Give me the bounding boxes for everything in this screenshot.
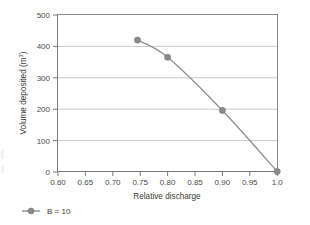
x-tick-label: 0.75 (132, 178, 148, 187)
x-tick-label: 0.85 (187, 178, 203, 187)
legend-label: B = 10 (47, 207, 71, 216)
x-axis-title: Relative discharge (133, 192, 201, 201)
y-tick-label: 0 (46, 168, 51, 177)
chart-svg: 0 100 200 300 400 500 Volume deposited (… (0, 0, 310, 225)
y-tick-label: 300 (37, 74, 51, 83)
x-tick-label: 0.65 (78, 178, 94, 187)
svg-text:Volume deposited (m3): Volume deposited (m3) (18, 51, 28, 134)
x-tick-label: 0.60 (50, 178, 66, 187)
y-tick-label: 100 (37, 137, 51, 146)
y-axis-title-close: ) (19, 51, 28, 54)
y-axis-title-base: Volume deposited (m (19, 57, 28, 134)
data-point-marker (219, 107, 225, 113)
data-point-marker (134, 37, 140, 43)
x-tick-label: 1.0 (272, 178, 284, 187)
chart-figure: 0 100 200 300 400 500 Volume deposited (… (0, 0, 310, 225)
x-tick-label: 0.90 (215, 178, 231, 187)
y-axis-title: Volume deposited (m3) (18, 51, 28, 134)
data-point-marker (165, 54, 171, 60)
y-tick-label: 500 (37, 11, 51, 20)
x-tick-label: 0.95 (242, 178, 258, 187)
x-tick-label: 0.70 (105, 178, 121, 187)
data-point-marker (274, 168, 280, 174)
legend-marker-icon (28, 208, 34, 214)
y-tick-label: 200 (37, 105, 51, 114)
x-tick-label: 0.80 (160, 178, 176, 187)
y-tick-label: 400 (37, 42, 51, 51)
